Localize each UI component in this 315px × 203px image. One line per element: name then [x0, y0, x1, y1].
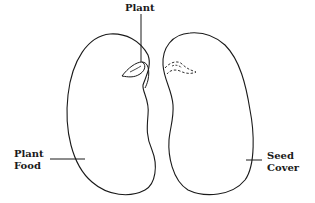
seed-cover-label: Seed Cover [267, 150, 299, 174]
plant-food-label: Plant Food [14, 148, 44, 172]
plant-food-label-line2: Food [14, 160, 44, 172]
embryo-imprint-icon [165, 62, 196, 74]
seed-cover-label-line1: Seed [267, 150, 299, 162]
left-seed-half [67, 34, 155, 195]
embryo-leaf-icon [122, 62, 145, 77]
plant-label: Plant [125, 2, 155, 14]
seed-diagram: Plant Plant Food Seed Cover [0, 0, 315, 203]
right-seed-half [163, 33, 253, 195]
plant-food-label-line1: Plant [14, 148, 44, 160]
seed-cover-label-line2: Cover [267, 162, 299, 174]
